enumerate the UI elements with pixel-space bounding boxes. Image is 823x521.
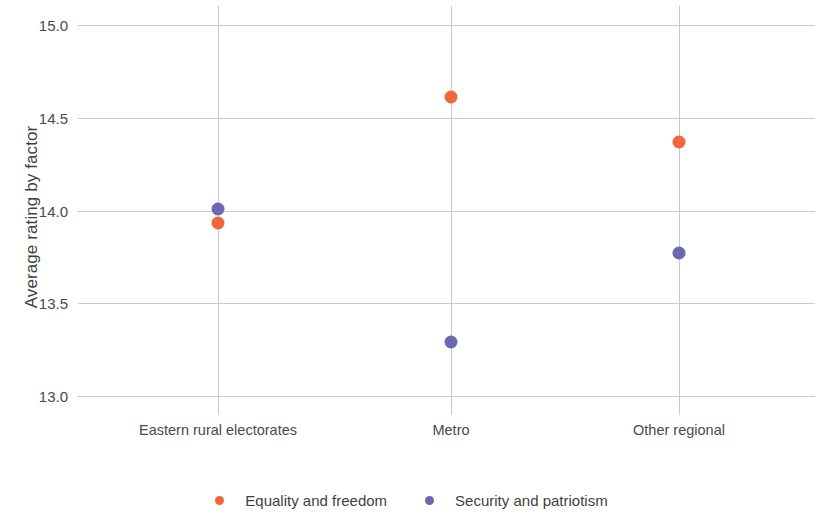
chart-legend: Equality and freedomSecurity and patriot… xyxy=(0,492,823,509)
legend-swatch-icon xyxy=(425,496,434,505)
y-axis-tick-13.0: 13.0 xyxy=(24,388,68,405)
y-axis-tick-14.5: 14.5 xyxy=(24,109,68,126)
y-axis-tick-labels: 13.013.514.014.515.0 xyxy=(0,0,68,420)
data-point[interactable] xyxy=(212,217,225,230)
x-axis-tick-other-regional: Other regional xyxy=(633,422,725,438)
category-line-2 xyxy=(679,6,680,415)
gridline-y-14.0 xyxy=(78,211,815,212)
plot-area xyxy=(78,0,815,420)
legend-label: Equality and freedom xyxy=(245,492,387,509)
y-axis-tick-15.0: 15.0 xyxy=(24,17,68,34)
legend-item-0[interactable]: Equality and freedom xyxy=(215,492,387,509)
data-point[interactable] xyxy=(445,336,458,349)
gridline-y-14.5 xyxy=(78,118,815,119)
data-point[interactable] xyxy=(445,91,458,104)
legend-swatch-icon xyxy=(215,496,224,505)
category-line-1 xyxy=(451,6,452,415)
gridline-y-15.0 xyxy=(78,25,815,26)
data-point[interactable] xyxy=(673,135,686,148)
x-axis-tick-eastern-rural-electorates: Eastern rural electorates xyxy=(139,422,297,438)
y-axis-tick-14.0: 14.0 xyxy=(24,202,68,219)
chart-container: Average rating by factor 13.013.514.014.… xyxy=(0,0,823,521)
legend-label: Security and patriotism xyxy=(455,492,608,509)
y-axis-tick-13.5: 13.5 xyxy=(24,295,68,312)
gridline-y-13.0 xyxy=(78,396,815,397)
gridline-y-13.5 xyxy=(78,303,815,304)
x-axis-tick-metro: Metro xyxy=(432,422,469,438)
legend-item-1[interactable]: Security and patriotism xyxy=(425,492,608,509)
data-point[interactable] xyxy=(212,202,225,215)
data-point[interactable] xyxy=(673,247,686,260)
